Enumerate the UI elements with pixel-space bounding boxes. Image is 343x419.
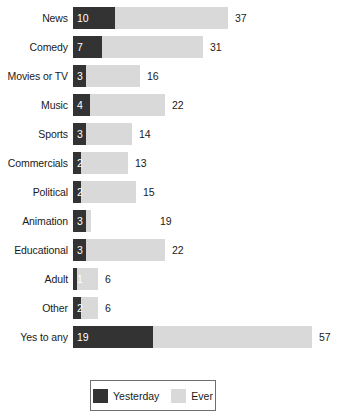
legend-entry-ever: Ever — [171, 389, 213, 403]
bar-track: 2 — [73, 152, 128, 174]
bar-value-yesterday: 4 — [77, 94, 83, 116]
bar-row: Music422 — [0, 94, 343, 123]
category-label: News — [0, 7, 68, 29]
category-label: Movies or TV — [0, 65, 68, 87]
bar-value-total: 13 — [135, 152, 147, 174]
legend-entries: Yesterday Ever — [91, 381, 215, 410]
category-label: Animation — [0, 210, 68, 232]
bar-track: 3 — [73, 65, 140, 87]
bar-value-yesterday: 2 — [77, 181, 83, 203]
bar-value-total: 37 — [235, 7, 247, 29]
bar-value-total: 16 — [147, 65, 159, 87]
category-label: Political — [0, 181, 68, 203]
legend-swatch-ever-icon — [171, 389, 186, 403]
category-label: Yes to any — [0, 326, 68, 348]
legend-swatch-yesterday-icon — [93, 389, 108, 403]
bar-value-yesterday: 7 — [77, 36, 83, 58]
bar-value-yesterday: 2 — [77, 297, 83, 319]
bar-value-total: 22 — [172, 239, 184, 261]
bar-value-total: 15 — [143, 181, 155, 203]
stacked-bar-chart: News1037Comedy731Movies or TV316Music422… — [0, 0, 343, 419]
bar-value-total: 6 — [105, 297, 111, 319]
category-label: Comedy — [0, 36, 68, 58]
bar-row: News1037 — [0, 7, 343, 36]
category-label: Music — [0, 94, 68, 116]
category-label: Sports — [0, 123, 68, 145]
bar-value-total: 6 — [105, 268, 111, 290]
bar-row: Sports314 — [0, 123, 343, 152]
bar-value-yesterday: 2 — [77, 152, 83, 174]
bar-track: 10 — [73, 7, 228, 29]
bar-track: 2 — [73, 181, 136, 203]
bar-value-yesterday: 10 — [77, 7, 89, 29]
bar-value-total: 19 — [160, 210, 172, 232]
bar-track: 4 — [73, 94, 165, 116]
bar-value-yesterday: 3 — [77, 239, 83, 261]
bar-row: Animation319 — [0, 210, 343, 239]
bar-track: 2 — [73, 297, 98, 319]
bar-track: 3 — [73, 210, 153, 232]
chart-legend: Yesterday Ever — [90, 380, 216, 411]
bar-value-yesterday: 1 — [77, 268, 83, 290]
bar-segment-ever — [73, 239, 165, 261]
bar-value-total: 31 — [210, 36, 222, 58]
bar-row: Educational322 — [0, 239, 343, 268]
category-label: Commercials — [0, 152, 68, 174]
bar-row: Yes to any1957 — [0, 326, 343, 355]
bar-track: 3 — [73, 239, 165, 261]
bar-row: Commercials213 — [0, 152, 343, 181]
category-label: Adult — [0, 268, 68, 290]
bar-value-total: 22 — [172, 94, 184, 116]
bar-track: 7 — [73, 36, 203, 58]
bar-row: Movies or TV316 — [0, 65, 343, 94]
bar-value-total: 14 — [139, 123, 151, 145]
legend-entry-yesterday: Yesterday — [93, 389, 159, 403]
bar-track: 1 — [73, 268, 98, 290]
bar-value-yesterday: 3 — [77, 210, 83, 232]
bar-row: Political215 — [0, 181, 343, 210]
chart-plot-area: News1037Comedy731Movies or TV316Music422… — [0, 0, 343, 370]
bar-row: Adult16 — [0, 268, 343, 297]
bar-track: 19 — [73, 326, 312, 348]
bar-track: 3 — [73, 123, 132, 145]
bar-row: Other26 — [0, 297, 343, 326]
bar-value-yesterday: 3 — [77, 65, 83, 87]
bar-value-total: 57 — [319, 326, 331, 348]
bar-row: Comedy731 — [0, 36, 343, 65]
bar-value-yesterday: 19 — [77, 326, 89, 348]
bar-value-yesterday: 3 — [77, 123, 83, 145]
category-label: Other — [0, 297, 68, 319]
legend-label-yesterday: Yesterday — [113, 390, 159, 402]
category-label: Educational — [0, 239, 68, 261]
legend-label-ever: Ever — [191, 390, 213, 402]
